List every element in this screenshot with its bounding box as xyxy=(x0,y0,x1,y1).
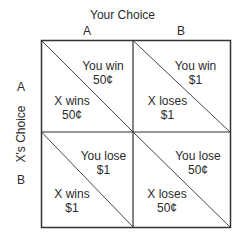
cell-aa-you-outcome: You win 50¢ xyxy=(78,59,128,87)
cell-ab-you-outcome: You win $1 xyxy=(168,59,223,87)
cell-bb-x-amount: 50¢ xyxy=(138,201,196,215)
cell-ab-x-amount: $1 xyxy=(140,108,195,122)
cell-ba-x-amount: $1 xyxy=(47,201,97,215)
cell-aa-you-label: You win xyxy=(78,59,128,73)
cell-bb-you-label: You lose xyxy=(169,149,227,163)
cell-aa-x-label: X wins xyxy=(47,94,97,108)
cell-ba-you-label: You lose xyxy=(76,149,131,163)
cell-aa-x-amount: 50¢ xyxy=(47,108,97,122)
cell-ab-x-label: X loses xyxy=(140,94,195,108)
cell-ab-x-outcome: X loses $1 xyxy=(140,94,195,122)
payoff-grid xyxy=(0,0,245,240)
cell-ab-you-amount: $1 xyxy=(168,73,223,87)
cell-ba-x-label: X wins xyxy=(47,187,97,201)
cell-bb-x-outcome: X loses 50¢ xyxy=(138,187,196,215)
cell-ba-x-outcome: X wins $1 xyxy=(47,187,97,215)
cell-aa-you-amount: 50¢ xyxy=(78,73,128,87)
cell-ba-you-amount: $1 xyxy=(76,163,131,177)
cell-bb-you-amount: 50¢ xyxy=(169,163,227,177)
cell-ba-you-outcome: You lose $1 xyxy=(76,149,131,177)
cell-bb-x-label: X loses xyxy=(138,187,196,201)
cell-ab-you-label: You win xyxy=(168,59,223,73)
cell-aa-x-outcome: X wins 50¢ xyxy=(47,94,97,122)
cell-bb-you-outcome: You lose 50¢ xyxy=(169,149,227,177)
